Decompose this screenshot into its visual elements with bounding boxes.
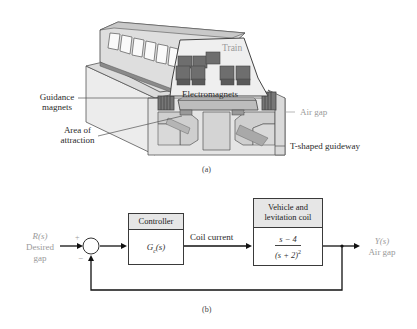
output-label: Y(s) Air gap	[362, 236, 402, 258]
air-gap-label: Air gap	[300, 107, 327, 117]
minus-sign: −	[78, 253, 83, 263]
figure-a-caption: (a)	[202, 165, 211, 174]
plus-sign: +	[75, 233, 80, 243]
area-of-attraction-label: Area of attraction	[55, 125, 100, 145]
coil-current-label: Coil current	[190, 232, 233, 242]
controller-header: Controller	[129, 214, 183, 230]
plant-transfer-function: s − 4 (s + 2)2	[254, 228, 322, 260]
summing-junction	[83, 238, 99, 254]
electromagnets-label: Electromagnets	[182, 89, 238, 99]
train-label: Train	[222, 43, 242, 53]
guideway-label: T-shaped guideway	[290, 141, 360, 151]
plant-block: Vehicle and levitation coil s − 4 (s + 2…	[253, 198, 323, 266]
controller-transfer-function: Gc(s)	[129, 230, 183, 268]
plant-header: Vehicle and levitation coil	[254, 199, 322, 228]
input-label: R(s) Desired gap	[22, 231, 58, 264]
figure-b-caption: (b)	[202, 305, 211, 314]
guidance-magnets-label: Guidance magnets	[33, 92, 81, 112]
controller-block: Controller Gc(s)	[128, 213, 184, 265]
